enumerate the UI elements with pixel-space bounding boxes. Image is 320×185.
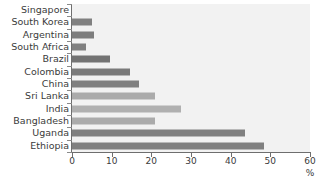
bar-row: Ethiopia — [0, 140, 320, 152]
bar-row: South Africa — [0, 41, 320, 53]
category-label: Singapore — [21, 5, 69, 15]
category-label: Uganda — [32, 129, 69, 139]
bar-row: Bangladesh — [0, 115, 320, 127]
category-label: South Korea — [11, 18, 69, 28]
y-axis-tick — [67, 78, 72, 79]
bar-row: Uganda — [0, 127, 320, 139]
x-axis-tick-label: 60 — [304, 157, 315, 166]
bar — [72, 142, 264, 149]
bar-row: South Korea — [0, 16, 320, 28]
y-axis-tick — [67, 103, 72, 104]
y-axis-tick — [67, 53, 72, 54]
bar-row: Brazil — [0, 53, 320, 65]
category-label: China — [42, 79, 69, 89]
bar-track — [72, 103, 310, 115]
bar — [72, 56, 110, 63]
category-label: Sri Lanka — [25, 92, 69, 102]
bar-row: China — [0, 78, 320, 90]
bar — [72, 81, 139, 88]
y-axis-tick — [67, 115, 72, 116]
bar — [72, 93, 155, 100]
x-axis-tick-label: 40 — [225, 157, 236, 166]
y-axis-tick — [67, 152, 72, 153]
bar-track — [72, 127, 310, 139]
y-axis-tick — [67, 66, 72, 67]
x-axis-tick-label: 10 — [106, 157, 117, 166]
category-label: South Africa — [11, 42, 69, 52]
category-label: Ethiopia — [30, 141, 69, 151]
y-axis-tick — [67, 4, 72, 5]
bar — [72, 31, 94, 38]
bar-row: Singapore — [0, 4, 320, 16]
bar — [72, 130, 245, 137]
x-axis-tick-label: 0 — [69, 157, 75, 166]
category-label: India — [46, 104, 69, 114]
bar-track — [72, 90, 310, 102]
y-axis-tick — [67, 41, 72, 42]
y-axis-tick — [67, 127, 72, 128]
x-axis-tick-label: 20 — [146, 157, 157, 166]
x-axis-unit-label: % — [306, 169, 315, 178]
bar-track — [72, 66, 310, 78]
bar — [72, 118, 155, 125]
category-label: Bangladesh — [13, 116, 69, 126]
category-label: Colombia — [24, 67, 69, 77]
bar-track — [72, 16, 310, 28]
bar-row: Sri Lanka — [0, 90, 320, 102]
bar-rows: SingaporeSouth KoreaArgentinaSouth Afric… — [0, 4, 320, 152]
bar-row: Argentina — [0, 29, 320, 41]
bar-track — [72, 41, 310, 53]
category-label: Argentina — [23, 30, 69, 40]
y-axis-tick — [67, 140, 72, 141]
bar-track — [72, 115, 310, 127]
bar — [72, 68, 130, 75]
bar-track — [72, 29, 310, 41]
bar — [72, 44, 86, 51]
y-axis-tick — [67, 90, 72, 91]
bar-chart: SingaporeSouth KoreaArgentinaSouth Afric… — [0, 0, 320, 185]
bar-track — [72, 53, 310, 65]
x-axis-tick-label: 50 — [265, 157, 276, 166]
bar-track — [72, 4, 310, 16]
bar — [72, 105, 181, 112]
category-label: Brazil — [42, 55, 69, 65]
bar-track — [72, 140, 310, 152]
x-axis-tick-label: 30 — [185, 157, 196, 166]
y-axis-tick — [67, 29, 72, 30]
bar-track — [72, 78, 310, 90]
bar — [72, 19, 92, 26]
y-axis-tick — [67, 16, 72, 17]
bar-row: Colombia — [0, 66, 320, 78]
bar-row: India — [0, 103, 320, 115]
